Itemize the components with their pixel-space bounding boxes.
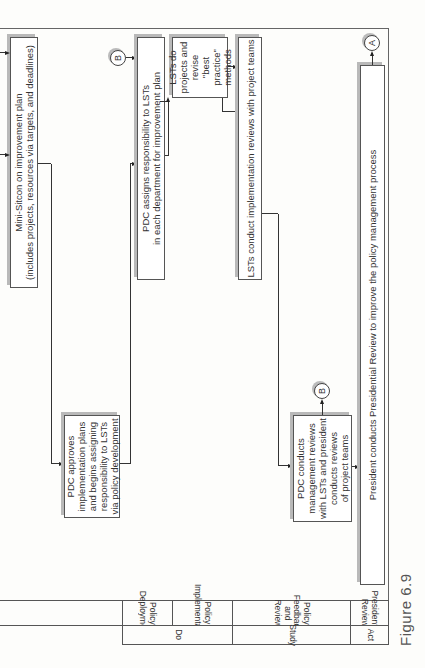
node-text: LSTs do — [167, 38, 178, 97]
node-text: responsibility to LSTs — [98, 418, 109, 514]
edge-segment — [38, 163, 51, 164]
node-text: LSTs conduct implementation reviews with… — [245, 39, 256, 277]
edge-lsts-conduct-loop — [222, 111, 238, 112]
lane-plan-upper-empty — [0, 600, 123, 626]
lane-policy-feedback: Policy Feedback and Review — [232, 600, 351, 626]
figure-caption-text: Figure 6.9 — [397, 573, 414, 646]
node-pdc-conducts: PDC conducts management reviews with LST… — [293, 415, 352, 522]
node-text: methods — [222, 38, 233, 97]
node-text: (includes projects, resources via target… — [24, 45, 35, 280]
node-text: PDC conducts — [295, 418, 306, 519]
node-text: with LSTs and president — [317, 418, 328, 519]
node-text: implementation plans — [76, 418, 87, 514]
node-text: President conducts Presidential Review t… — [367, 150, 378, 501]
node-text: PDC approves — [65, 418, 76, 514]
arrow-head — [5, 153, 10, 157]
phase-plan-empty — [0, 625, 123, 645]
connector-label: A — [367, 40, 377, 46]
edge-segment — [222, 98, 223, 112]
node-text: in each department for improvement plan — [151, 72, 162, 245]
arrow-head — [166, 97, 170, 102]
lane-policy-implementation: Policy Implementation — [172, 600, 233, 626]
node-lsts-do: LSTs do projects and revise "best practi… — [172, 37, 228, 98]
phase-act: Act — [350, 625, 389, 645]
connector-label: B — [317, 388, 327, 394]
phase-do: Do — [122, 625, 233, 645]
node-text: Mini-Sitcon on improvement plan — [13, 45, 24, 280]
node-text: conducts reviews — [328, 418, 339, 519]
edge-segment — [278, 214, 279, 466]
edge-segment — [130, 164, 131, 464]
lane-policy-deployment: Policy Deployment — [122, 600, 173, 626]
connector-b-top: B — [110, 50, 126, 66]
node-text: projects and — [178, 38, 189, 97]
lane-presidential-review: Presidential Review — [350, 600, 389, 626]
node-pdc-approves: PDC approves implementation plans and be… — [64, 415, 120, 518]
node-text: of project teams — [339, 418, 350, 519]
node-lsts-conduct: LSTs conduct implementation reviews with… — [238, 37, 262, 280]
node-president-review: President conducts Presidential Review t… — [360, 65, 385, 585]
node-mini-sitcon: Mini-Sitcon on improvement plan (include… — [10, 37, 38, 288]
connector-label: B — [111, 55, 125, 61]
connector-a: A — [364, 35, 380, 51]
figure-page: Policy Deployment Policy Implementation … — [0, 0, 425, 668]
phase-label: Study — [287, 624, 297, 646]
node-pdc-assigns: PDC assigns responsibility to LSTs in ea… — [137, 37, 165, 280]
arrow-head — [370, 51, 374, 56]
edge-segment — [51, 164, 52, 464]
phase-label: Do — [173, 630, 183, 641]
node-text: management reviews — [306, 418, 317, 519]
edge-pdc-approves-to-pdc-assigns — [120, 463, 130, 464]
connector-b-mid: B — [314, 383, 330, 399]
phase-label: Act — [365, 629, 375, 641]
node-text: PDC assigns responsibility to LSTs — [140, 72, 151, 245]
flowchart-canvas: Policy Deployment Policy Implementation … — [0, 0, 425, 668]
phase-study: Study — [232, 625, 351, 645]
node-text: and begins assigning — [87, 418, 98, 514]
node-text: revise — [189, 38, 200, 97]
edge-segment — [168, 102, 169, 156]
arrow-head — [5, 51, 10, 55]
edge-lsts-conduct-to-pdc-conducts — [262, 213, 278, 214]
arrow-head — [320, 399, 324, 404]
node-text: via policy development — [109, 418, 120, 514]
diagram-frame — [0, 28, 389, 645]
node-text: "best practice" — [200, 38, 222, 97]
